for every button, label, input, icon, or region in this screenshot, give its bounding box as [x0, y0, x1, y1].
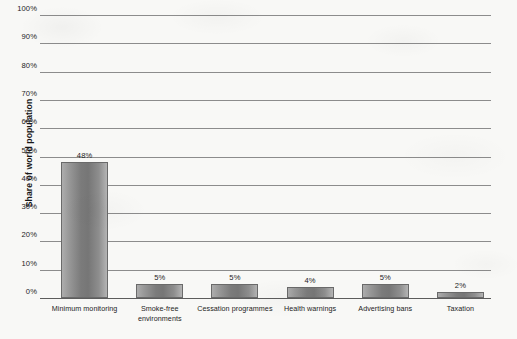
- y-axis-title-text: Share of world population: [24, 99, 34, 208]
- bar: [211, 284, 258, 298]
- x-category-label: Smoke-freeenvironments: [138, 304, 182, 323]
- y-tick-label: 90%: [22, 33, 38, 42]
- bar: [437, 292, 484, 298]
- x-category-label-line: Taxation: [447, 304, 474, 314]
- bar-value-label: 5%: [154, 273, 165, 282]
- x-category-label-line: Minimum monitoring: [52, 304, 118, 314]
- x-category-label: Health warnings: [284, 304, 336, 314]
- bar: [287, 287, 334, 298]
- x-category-label-line: Advertising bans: [358, 304, 412, 314]
- x-category-label-line: Smoke-free: [138, 304, 182, 314]
- bar: [362, 284, 409, 298]
- x-category-label: Cessation programmes: [197, 304, 272, 314]
- y-tick-label: 80%: [22, 61, 38, 70]
- bar-value-label: 5%: [229, 273, 240, 282]
- x-category-label: Taxation: [447, 304, 474, 314]
- y-tick-label: 100%: [17, 4, 37, 13]
- y-tick-label: 0%: [26, 287, 37, 296]
- x-category-label-line: environments: [138, 314, 182, 324]
- y-tick-label: 10%: [22, 259, 38, 268]
- x-category-label: Minimum monitoring: [52, 304, 118, 314]
- y-tick-label: 70%: [22, 89, 38, 98]
- x-category-label: Advertising bans: [358, 304, 412, 314]
- x-category-label-line: Cessation programmes: [197, 304, 272, 314]
- bars-layer: 48%Minimum monitoring5%Smoke-freeenviron…: [40, 0, 491, 339]
- bar: [136, 284, 183, 298]
- bar-value-label: 48%: [77, 151, 93, 160]
- bar-value-label: 2%: [455, 281, 466, 290]
- x-category-label-line: Health warnings: [284, 304, 336, 314]
- bar: [61, 162, 108, 298]
- bar-value-label: 4%: [304, 276, 315, 285]
- y-tick-label: 20%: [22, 231, 38, 240]
- y-axis-title: Share of world population: [22, 98, 36, 208]
- bar-value-label: 5%: [380, 273, 391, 282]
- bar-chart: Share of world population 0%10%20%30%40%…: [0, 0, 517, 339]
